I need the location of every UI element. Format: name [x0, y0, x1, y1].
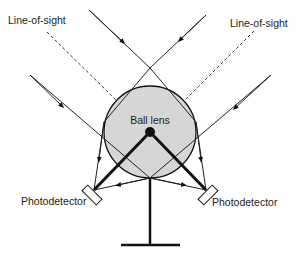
ray-bottom-to-left-arrow	[118, 178, 150, 185]
line-of-sight-right-dashed	[185, 31, 254, 100]
label-photodetector-right: Photodetector	[212, 196, 278, 208]
ray-top-right-arrow	[180, 15, 206, 40]
ray-bottom-to-right-arrow	[150, 178, 184, 185]
ball-lens-diagram: Line-of-sight Line-of-sight Ball lens Ph…	[0, 0, 298, 259]
label-photodetector-left: Photodetector	[21, 195, 87, 207]
label-line-of-sight-left: Line-of-sight	[8, 14, 66, 26]
ray-top-right-down-arrow	[99, 122, 104, 160]
line-of-sight-left-dashed	[47, 32, 116, 100]
ball-center-pivot	[145, 127, 155, 137]
label-line-of-sight-right: Line-of-sight	[230, 17, 288, 29]
ray-top-left-down-arrow	[196, 122, 201, 160]
ray-outer-left-arrow	[30, 75, 62, 106]
label-ball-lens: Ball lens	[130, 114, 170, 126]
ray-top-left-arrow	[89, 10, 123, 42]
ray-outer-right-arrow	[235, 75, 271, 108]
